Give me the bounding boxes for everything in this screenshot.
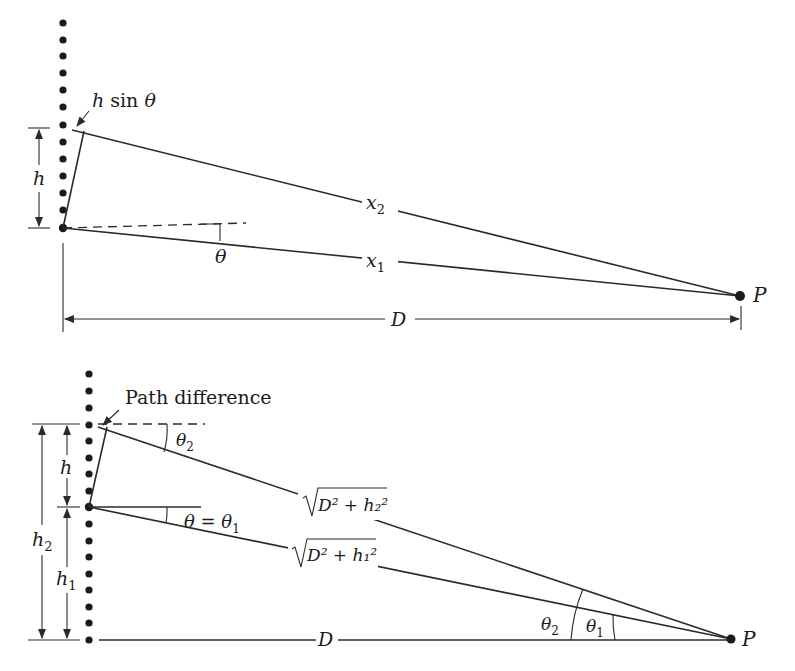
ray-x2 [72,130,740,296]
d-label-bottom: D [317,628,333,650]
svg-text:D² + h₁²: D² + h₁² [306,545,377,565]
h2-label: h2 [32,528,53,554]
diffraction-path-difference-figure: h h sin θ θ x2 x1 P D [0,0,795,671]
path-difference-label: Path difference [125,386,272,408]
d-label: D [390,308,406,330]
d-dimension: D [63,243,741,332]
theta-angle-mark [200,224,220,241]
path-difference-arrow [103,410,119,425]
point-p [735,291,745,301]
theta1-label-at-p: θ1 [586,616,604,640]
theta-label: θ [215,245,227,267]
h-label-bottom: h [60,456,72,478]
svg-text:D² + h₂²: D² + h₂² [317,495,388,515]
h-dimension: h [28,128,50,228]
perpendicular-segment [63,131,84,228]
p-label-bottom: P [741,627,756,651]
h-sin-theta-arrow [77,111,89,126]
h2-dimension: h2 [32,426,53,638]
theta2-label-at-p: θ2 [541,614,559,638]
theta1-arc-at-p [613,615,615,640]
h1-dimension: h1 [56,509,77,638]
theta2-arc-top [164,424,167,452]
source-dot-column [59,19,67,232]
h-dimension-bottom: h [60,426,72,505]
h-label: h [33,167,45,189]
ray-x1 [63,228,740,296]
point-p-bottom [727,635,736,644]
h-sin-theta-label: h sin θ [92,89,156,111]
bottom-diagram: Path difference h2 h h1 [28,370,756,651]
ray-sqrt-d2-h2 [98,427,731,639]
h1-label: h1 [56,567,77,593]
p-label: P [752,283,767,307]
top-diagram: h h sin θ θ x2 x1 P D [28,19,767,332]
theta2-arc-at-p [571,589,583,640]
theta2-label-top: θ2 [176,430,194,454]
theta1-arc [166,507,167,523]
